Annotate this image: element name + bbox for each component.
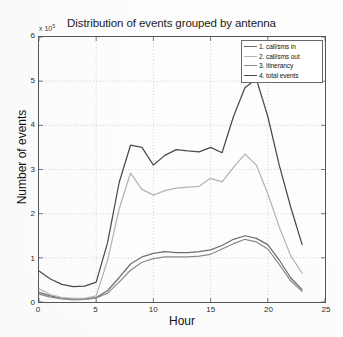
legend-line-swatch-icon [244,56,257,57]
y-axis-multiplier-exponent: 5 [52,23,55,29]
legend-item-3[interactable]: 3. itinerancy [242,61,322,71]
x-tick-label: 5 [87,305,105,314]
y-tick-label: 2 [19,209,35,218]
legend-item-1[interactable]: 1. call/sms in [242,42,322,52]
series-line-3 [39,239,302,300]
x-tick-label: 20 [259,305,277,314]
x-tick-label: 10 [144,305,162,314]
series-line-2 [39,154,302,298]
x-tick-label: 15 [202,305,220,314]
chart-figure: Distribution of events grouped by antenn… [0,0,343,337]
series-line-4 [39,79,302,287]
legend-line-swatch-icon [244,65,257,66]
legend-item-4[interactable]: 4. total events [242,71,322,81]
series-lines [39,79,302,300]
y-tick-label: 5 [19,76,35,85]
y-tick-label: 1 [19,254,35,263]
y-tick-label: 3 [19,165,35,174]
x-axis-title: Hour [38,314,326,328]
x-tick-label: 25 [317,305,335,314]
legend-item-2[interactable]: 2. call/sms out [242,52,322,62]
y-axis-multiplier-label: x 105 [39,23,55,32]
y-tick-label: 4 [19,120,35,129]
x-tick-label: 0 [29,305,47,314]
legend-item-label: 2. call/sms out [259,53,300,60]
legend-item-label: 3. itinerancy [259,62,293,69]
legend-item-label: 1. call/sms in [259,43,296,50]
legend-item-label: 4. total events [259,72,299,79]
y-tick-label: 6 [19,31,35,40]
chart-legend: 1. call/sms in2. call/sms out3. itineran… [241,40,323,83]
legend-line-swatch-icon [244,75,257,76]
legend-line-swatch-icon [244,46,257,47]
y-axis-multiplier-base: x 10 [39,25,52,32]
